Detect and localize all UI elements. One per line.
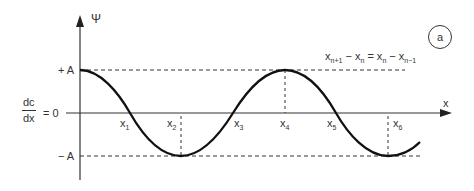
spacing-equation: xn+1 − xn = xn − xn−1 [325,51,416,64]
x-axis-arrow-icon [440,109,452,117]
point-x3: x3 [234,118,243,131]
plus-a-label: + A [58,65,74,76]
derivative-fraction: dc dx [22,97,36,124]
panel-label-badge: a [428,25,452,49]
derivative-numerator: dc [22,97,36,111]
derivative-equals: = 0 [43,108,59,119]
derivative-denominator: dx [22,111,36,124]
y-axis-arrow-icon [76,15,84,27]
point-x6: x6 [393,118,402,131]
x-axis-label: x [443,98,449,109]
point-x4: x4 [280,118,289,131]
wave-diagram [0,0,474,191]
point-x1: x1 [120,118,129,131]
y-axis-label: Ψ [91,13,101,25]
point-x2: x2 [167,118,176,131]
minus-a-label: − A [58,151,74,162]
point-x5: x5 [327,118,336,131]
